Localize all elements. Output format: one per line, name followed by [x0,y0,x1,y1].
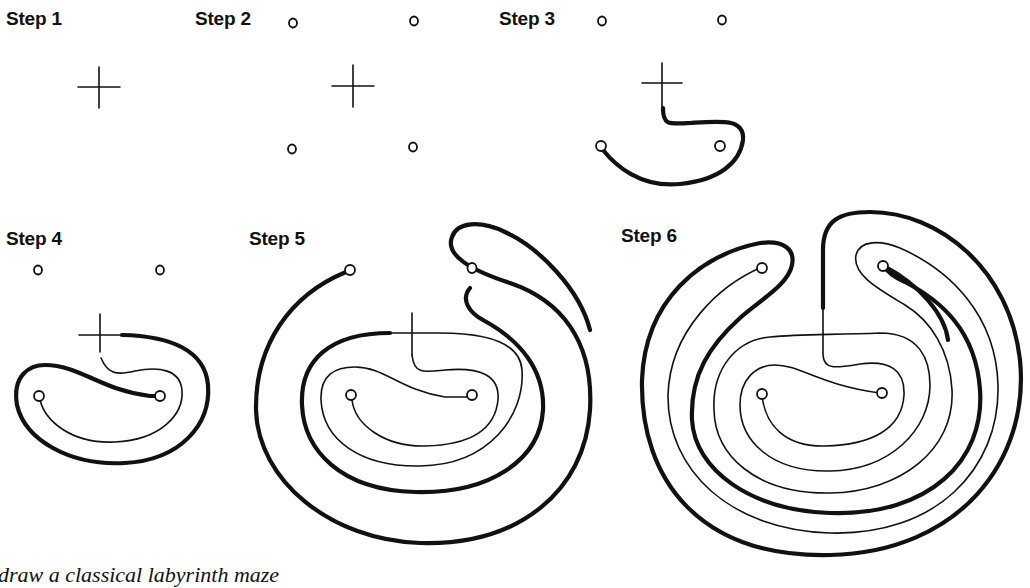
thin-wall-spiral [668,243,998,533]
wall-thick [16,335,208,463]
dot-icon [757,263,767,273]
dot-icon [598,17,606,26]
center-wall-thin [352,355,498,446]
step-2-figure [288,17,418,154]
dot-icon [34,266,42,275]
dot-icon [715,141,725,151]
dot-icon [877,388,887,398]
dot-icon [155,391,165,401]
step-1-figure [78,67,120,108]
dot-icon [409,143,417,152]
step-5-figure [256,224,590,543]
middle-wall-thick [302,288,543,492]
caption: draw a classical labyrinth maze [0,562,279,588]
dot-icon [718,16,726,25]
dot-icon [34,391,44,401]
cross-icon [78,67,120,108]
step-4-figure [16,266,208,464]
center-wall-thin [762,308,904,446]
cross-icon [642,63,682,108]
step-6-figure [642,212,1021,555]
dot-icon [596,141,606,151]
cross-icon [332,65,374,107]
dot-icon [468,263,477,273]
dot-icon [878,261,888,271]
dot-icon [345,265,355,275]
dot-icon [288,145,296,154]
step-3-figure [596,16,743,185]
dot-icon [289,19,297,28]
dot-icon [410,17,418,26]
dot-icon [156,266,164,275]
dot-icon [346,390,356,400]
cross-icon [79,314,122,352]
dot-icon [467,390,477,400]
dot-icon [757,389,767,399]
outer-wall-thick [642,212,1021,555]
